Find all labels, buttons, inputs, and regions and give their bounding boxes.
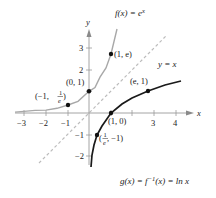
label-e-1: (e, 1) [130, 76, 148, 86]
svg-text:(: ( [99, 133, 102, 143]
label-1-0: (1, 0) [108, 116, 127, 126]
svg-text:): ) [63, 91, 66, 101]
x-tick-neg2: −2 [39, 118, 48, 128]
point-0-1 [87, 89, 91, 93]
y-tick-neg1: −1 [75, 130, 84, 140]
label-0-1: (0, 1) [66, 77, 85, 87]
y-tick-3: 3 [79, 43, 83, 53]
svg-text:, −1): , −1) [107, 133, 123, 143]
y-axis-arrow-icon [87, 29, 92, 37]
y-tick-2: 2 [79, 65, 83, 75]
x-axis-label: x [196, 108, 201, 118]
x-tick-4: 4 [173, 118, 178, 128]
point-1-0 [109, 111, 113, 115]
svg-text:e: e [58, 97, 61, 104]
y-tick-neg2: −2 [75, 151, 84, 161]
label-inv-e-neg1: ( 1 e , −1) [99, 131, 123, 146]
label-neg1-inv-e: (−1, 1 e ) [35, 89, 66, 104]
svg-text:e: e [103, 139, 106, 146]
svg-text:(−1,: (−1, [35, 91, 49, 101]
y-equals-x-label: y = x [157, 59, 177, 69]
y-axis-label: y [85, 17, 90, 27]
ln-curve [91, 81, 181, 167]
svg-text:1: 1 [59, 89, 62, 96]
point-1-e [109, 52, 113, 56]
x-tick-neg3: −3 [17, 118, 26, 128]
f-label: f(x) = ex [115, 7, 145, 19]
graph-exp-ln: y x −3 −2 −1 3 4 3 2 −1 −2 f(x) = ex y =… [0, 0, 216, 198]
x-axis-arrow-icon [186, 111, 194, 116]
point-e-1 [146, 89, 150, 93]
g-label: g(x) = f−1(x) = ln x [120, 175, 189, 187]
x-tick-3: 3 [151, 118, 155, 128]
y-axis [86, 29, 92, 165]
x-tick-neg1: −1 [61, 118, 70, 128]
label-1-e: (1, e) [114, 49, 132, 59]
point-neg1-inv-e [66, 103, 70, 107]
